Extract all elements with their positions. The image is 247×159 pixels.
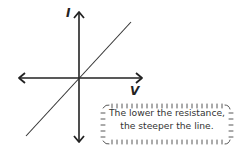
note-line-1: The lower the resistance, (104, 106, 230, 119)
iv-graph (0, 0, 247, 159)
annotation-note: The lower the resistance, the steeper th… (104, 106, 230, 132)
note-frame-bottom-ticks (112, 140, 222, 144)
note-line-2: the steeper the line. (104, 119, 230, 132)
x-axis-label: V (130, 84, 139, 98)
y-axis-label: I (66, 6, 70, 20)
